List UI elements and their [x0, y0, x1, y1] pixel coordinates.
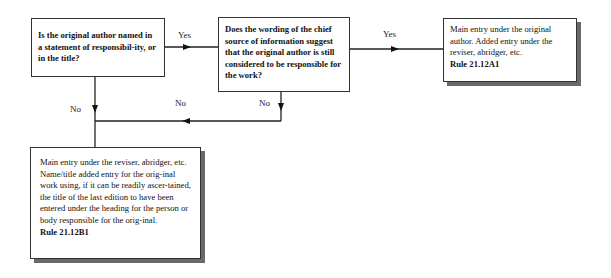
result-text: Main entry under the reviser, abridger, …: [40, 157, 191, 225]
edge-label-no: No: [175, 98, 186, 108]
result-box-rule-21-12a1: Main entry under the original author. Ad…: [443, 18, 577, 82]
edge-label-no: No: [70, 104, 81, 114]
rule-reference: Rule 21.12B1: [40, 227, 192, 239]
arrow-down-icon: [278, 103, 284, 111]
edge-label-no: No: [259, 98, 270, 108]
arrow-down-icon: [92, 105, 98, 113]
decision-text: Does the wording of the chief source of …: [225, 24, 341, 80]
decision-text: Is the original author named in a statem…: [38, 30, 156, 63]
result-box-rule-21-12b1: Main entry under the reviser, abridger, …: [30, 147, 201, 259]
result-text: Main entry under the original author. Ad…: [450, 24, 552, 57]
rule-reference: Rule 21.12A1: [450, 59, 571, 71]
arrow-right-icon: [391, 46, 399, 52]
decision-box-author-named: Is the original author named in a statem…: [31, 18, 165, 77]
arrow-right-icon: [183, 44, 191, 50]
edge-label-yes: Yes: [178, 30, 191, 40]
arrow-left-icon: [182, 118, 190, 124]
decision-box-chief-source-wording: Does the wording of the chief source of …: [218, 17, 350, 92]
edge-label-yes: Yes: [383, 29, 396, 39]
